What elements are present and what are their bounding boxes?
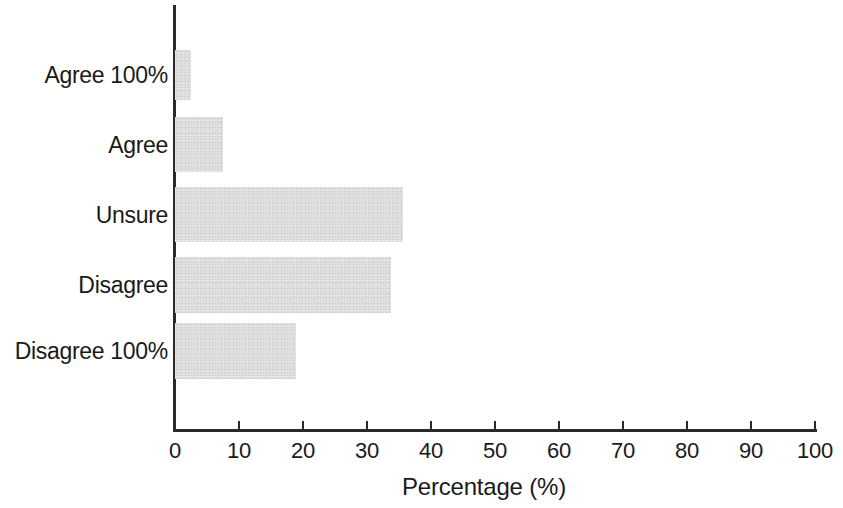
x-axis-tick <box>622 421 624 430</box>
x-axis-tick <box>302 421 304 430</box>
x-axis-tick-label: 80 <box>675 438 699 464</box>
x-axis-tick <box>238 421 240 430</box>
x-axis-tick-label: 0 <box>169 438 181 464</box>
bar <box>175 257 391 313</box>
category-label: Agree 100% <box>44 62 168 89</box>
bar <box>175 117 223 172</box>
x-axis-tick <box>366 421 368 430</box>
x-axis-tick-label: 20 <box>291 438 315 464</box>
x-axis-tick <box>494 421 496 430</box>
x-axis-tick <box>686 421 688 430</box>
bar <box>175 323 296 379</box>
x-axis-tick <box>174 421 176 430</box>
bar-row <box>175 117 223 172</box>
category-label: Disagree <box>78 272 168 299</box>
x-axis-tick <box>750 421 752 430</box>
category-label: Unsure <box>96 201 168 228</box>
x-axis-tick-label: 90 <box>739 438 763 464</box>
category-label: Agree <box>108 131 168 158</box>
bar-row <box>175 50 191 100</box>
x-axis-tick-label: 30 <box>355 438 379 464</box>
bar <box>175 187 403 242</box>
x-axis-tick-label: 10 <box>227 438 251 464</box>
x-axis-title-text: Percentage (%) <box>402 473 566 501</box>
x-axis-tick-label: 60 <box>547 438 571 464</box>
bar-row <box>175 187 403 242</box>
x-axis-tick-label: 100 <box>797 438 833 464</box>
x-axis-title: Percentage (%) <box>0 473 843 501</box>
bar <box>175 50 191 100</box>
x-axis-tick <box>558 421 560 430</box>
category-label: Disagree 100% <box>15 338 168 365</box>
x-axis-tick-label: 70 <box>611 438 635 464</box>
x-axis-tick <box>430 421 432 430</box>
x-axis-tick-label: 40 <box>419 438 443 464</box>
bar-chart: 0102030405060708090100 Agree 100%AgreeUn… <box>0 0 843 508</box>
x-axis-tick-label: 50 <box>483 438 507 464</box>
bar-row <box>175 257 391 313</box>
bar-row <box>175 323 296 379</box>
x-axis-tick <box>814 421 816 430</box>
